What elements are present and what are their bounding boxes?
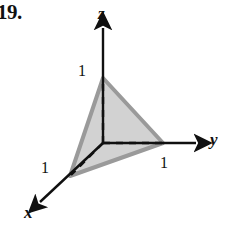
problem-number: 19. bbox=[0, 2, 22, 23]
axis-label-x: x bbox=[24, 204, 33, 221]
tick-label-z-intercept: 1 bbox=[78, 63, 86, 79]
x-axis-line bbox=[40, 143, 103, 202]
coordinate-axes-diagram bbox=[0, 0, 235, 231]
figure-container: 19. z y x 1 1 1 bbox=[0, 0, 235, 231]
tick-label-x-intercept: 1 bbox=[41, 160, 49, 176]
axis-label-z: z bbox=[98, 5, 105, 22]
axis-label-y: y bbox=[210, 131, 218, 148]
tick-label-y-intercept: 1 bbox=[160, 155, 168, 171]
